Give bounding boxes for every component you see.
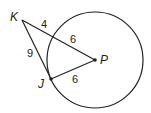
- label-kj: 9: [27, 47, 33, 59]
- circle-diagram: K P J 4 6 9 6: [0, 0, 151, 113]
- label-kp-outer: 4: [41, 18, 47, 30]
- label-k: K: [10, 10, 19, 24]
- point-j-dot: [49, 77, 53, 81]
- label-j: J: [37, 77, 45, 91]
- label-kp-inner: 6: [70, 33, 76, 45]
- label-jp: 6: [72, 73, 78, 85]
- label-p: P: [100, 53, 108, 67]
- point-p-dot: [93, 58, 97, 62]
